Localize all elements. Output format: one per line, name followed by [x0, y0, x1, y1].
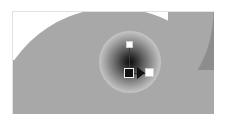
gradient-center-handle[interactable]: [124, 68, 134, 78]
corner-wedge-shape[interactable]: [168, 12, 214, 70]
gradient-focus-handle[interactable]: [145, 68, 154, 77]
drawing-canvas[interactable]: [12, 11, 214, 114]
screenshot-root: [0, 0, 226, 124]
gradient-direction-arrow-icon: [137, 67, 145, 79]
gradient-radius-handle[interactable]: [126, 41, 133, 48]
